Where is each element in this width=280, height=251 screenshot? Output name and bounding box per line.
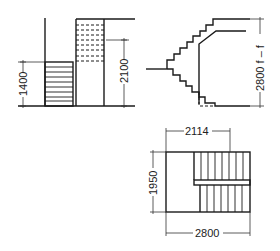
section-elevation-view: 1400 2100 — [17, 18, 135, 108]
dim-2114-label: 2114 — [185, 125, 209, 137]
staircase-diagram: 1400 2100 2800 f – f — [0, 0, 280, 251]
plan-view: 2114 1950 2800 — [147, 125, 250, 239]
dim-2800-label: 2800 — [195, 227, 219, 239]
dim-2800ff-label: 2800 f – f — [254, 44, 266, 91]
dim-1400-label: 1400 — [17, 72, 29, 96]
dim-1950-label: 1950 — [147, 171, 159, 195]
dim-2100-label: 2100 — [118, 59, 130, 83]
side-section-view: 2800 f – f — [146, 17, 266, 108]
